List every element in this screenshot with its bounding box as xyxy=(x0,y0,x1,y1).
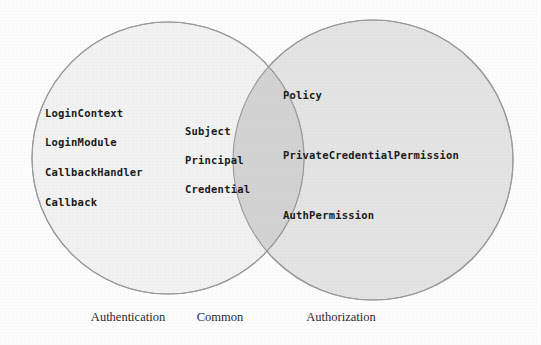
common-caption: Common xyxy=(197,310,244,324)
common-member-label: Principal xyxy=(185,154,244,166)
authentication-member-label: LoginModule xyxy=(45,136,117,148)
authorization-member-label: AuthPermission xyxy=(283,209,374,221)
authentication-caption: Authentication xyxy=(91,310,165,324)
diagram-label-layer: LoginContextLoginModuleCallbackHandlerCa… xyxy=(0,0,541,345)
authentication-member-label: LoginContext xyxy=(45,107,123,119)
authorization-member-label: PrivateCredentialPermission xyxy=(283,149,459,161)
authorization-member-label: Policy xyxy=(283,89,322,101)
authentication-member-label: Callback xyxy=(45,196,97,208)
venn-diagram-page: LoginContextLoginModuleCallbackHandlerCa… xyxy=(0,0,541,345)
common-member-label: Subject xyxy=(185,125,231,137)
common-member-label: Credential xyxy=(185,183,250,195)
authorization-caption: Authorization xyxy=(306,310,375,324)
authentication-member-label: CallbackHandler xyxy=(45,166,143,178)
